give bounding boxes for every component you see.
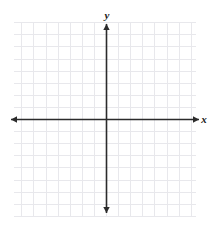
- y-axis-label: y: [103, 9, 110, 21]
- coordinate-plane-figure: y x: [0, 0, 213, 227]
- x-axis-label: x: [200, 113, 207, 125]
- coordinate-plane-svg: y x: [0, 0, 213, 227]
